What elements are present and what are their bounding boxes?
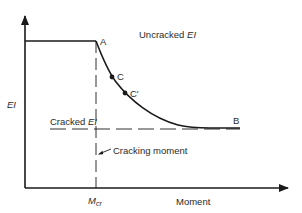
ei-moment-diagram: A C C′ B Uncracked EI Cracked EI Crackin…: [0, 0, 302, 213]
cracked-ei-label-text: Cracked: [50, 116, 88, 127]
point-c-marker: [110, 75, 115, 80]
mcr-tick-label-sub: cr: [96, 200, 103, 207]
point-b-label: B: [233, 115, 239, 126]
point-cprime-marker: [123, 91, 128, 96]
ei-transition-curve: [96, 41, 240, 128]
leader-arrowhead-icon: [98, 151, 103, 155]
point-c-label: C: [117, 71, 124, 82]
cracked-ei-label: Cracked EI: [50, 116, 97, 127]
point-a-label: A: [100, 36, 107, 47]
mcr-tick-label: Mcr: [88, 195, 102, 207]
uncracked-ei-label-symbol: EI: [187, 29, 196, 40]
cracked-ei-label-symbol: EI: [88, 116, 97, 127]
uncracked-ei-label-text: Uncracked: [139, 29, 187, 40]
point-cprime-label: C′: [130, 88, 139, 99]
x-axis-label: Moment: [176, 196, 211, 207]
cracking-moment-label: Cracking moment: [113, 145, 188, 156]
uncracked-ei-label: Uncracked EI: [139, 29, 196, 40]
mcr-tick-label-main: M: [88, 195, 96, 206]
y-axis-label: EI: [7, 99, 16, 110]
